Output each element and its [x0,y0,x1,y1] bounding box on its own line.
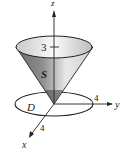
height-label: 3 [41,41,47,53]
y-axis-arrow-icon [107,102,113,106]
y-radius-label: 4 [94,93,99,103]
z-axis-arrow-icon [52,10,56,17]
x-radius-label: 4 [40,123,45,133]
z-axis-label: z [50,0,55,8]
y-axis-label: y [114,99,120,110]
region-label: D [26,101,35,113]
x-axis-label: x [21,139,27,150]
cone-diagram: z 3 S D 4 y 4 x [0,0,126,158]
surface-label: S [41,68,47,80]
